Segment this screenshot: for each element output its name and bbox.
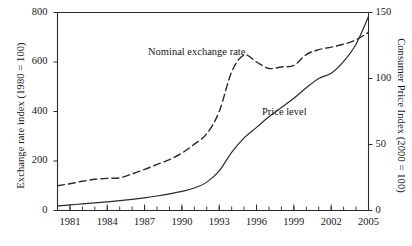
- y-tick-label-left: 200: [18, 154, 48, 165]
- y-tick-label-right: 50: [376, 138, 406, 149]
- x-tick-label: 1993: [199, 216, 239, 227]
- series-line-price-level: [58, 16, 369, 205]
- exchange-rate-cpi-chart: Exchange rate index (1980 = 100) Consume…: [0, 0, 412, 246]
- axis-ticks: [54, 13, 373, 211]
- y-tick-label-left: 0: [18, 204, 48, 215]
- x-tick-label: 1999: [274, 216, 314, 227]
- plot-area: [0, 0, 412, 246]
- plot-frame: [58, 13, 369, 211]
- y-tick-label-left: 800: [18, 6, 48, 17]
- data-series: [58, 16, 369, 205]
- y-tick-label-right: 100: [376, 72, 406, 83]
- y-tick-label-right: 0: [376, 204, 406, 215]
- x-tick-label: 1984: [87, 216, 127, 227]
- x-tick-label: 1981: [50, 216, 90, 227]
- x-tick-label: 2005: [349, 216, 389, 227]
- x-tick-label: 1990: [162, 216, 202, 227]
- y-tick-label-left: 400: [18, 105, 48, 116]
- x-tick-label: 2002: [311, 216, 351, 227]
- series-line-nominal-exchange-rate: [58, 32, 369, 185]
- y-tick-label-left: 600: [18, 55, 48, 66]
- x-tick-label: 1987: [125, 216, 165, 227]
- y-tick-label-right: 150: [376, 6, 406, 17]
- x-tick-label: 1996: [237, 216, 277, 227]
